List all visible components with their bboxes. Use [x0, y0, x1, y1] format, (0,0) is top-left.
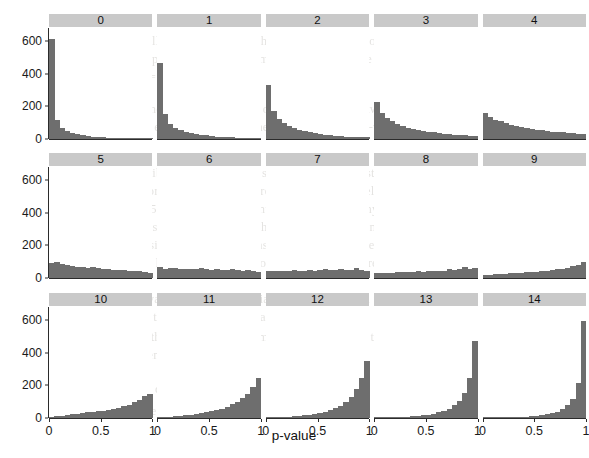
histogram-bar: [256, 138, 262, 139]
facet-strip-label: 2: [266, 14, 369, 27]
y-tick-label: 600: [8, 34, 42, 48]
facet-strip-label: 3: [374, 14, 477, 27]
y-tick-label: 400: [8, 206, 42, 220]
histogram-bar: [581, 262, 587, 278]
x-tick-mark: [586, 419, 587, 422]
histogram-bar: [364, 137, 370, 139]
y-tick-label: 200: [8, 238, 42, 252]
histogram-bars: [157, 167, 260, 278]
facet-panel: [374, 167, 477, 278]
histogram-bar: [472, 341, 478, 418]
facet-strip-label: 4: [483, 14, 586, 27]
x-tick-mark: [369, 419, 370, 422]
x-tick-mark: [318, 419, 319, 422]
histogram-bars: [49, 28, 152, 139]
facet-strip-label: 13: [374, 293, 477, 306]
facet-strip-label: 10: [49, 293, 152, 306]
x-tick-mark: [266, 419, 267, 422]
facet-panel: [266, 28, 369, 139]
x-tick-mark: [261, 419, 262, 422]
histogram-bar: [147, 273, 153, 278]
panel-axis-line-bottom: [374, 278, 477, 279]
histogram-bar: [472, 268, 478, 278]
x-tick-mark: [152, 419, 153, 422]
y-tick-label: 400: [8, 346, 42, 360]
panel-axis-line-bottom: [374, 139, 477, 140]
histogram-bar: [581, 134, 587, 139]
facet-panel: [49, 307, 152, 418]
panel-axis-line-bottom: [483, 139, 586, 140]
y-tick-label: 400: [8, 67, 42, 81]
histogram-bar: [147, 394, 153, 418]
histogram-bars: [157, 28, 260, 139]
y-tick-label: 200: [8, 378, 42, 392]
histogram-bar: [256, 378, 262, 418]
histogram-bars: [374, 307, 477, 418]
x-tick-mark: [483, 419, 484, 422]
histogram-bars: [483, 167, 586, 278]
facet-panel: [483, 167, 586, 278]
facet-panel: [266, 307, 369, 418]
panel-axis-line-bottom: [483, 278, 586, 279]
histogram-bar: [364, 271, 370, 279]
panel-axis-line-bottom: [49, 139, 152, 140]
panel-axis-line-bottom: [157, 139, 260, 140]
facet-strip-label: 5: [49, 153, 152, 166]
facet-strip-label: 12: [266, 293, 369, 306]
x-tick-mark: [534, 419, 535, 422]
histogram-bars: [374, 28, 477, 139]
y-tick-label: 600: [8, 313, 42, 327]
y-tick-label: 600: [8, 173, 42, 187]
y-tick-label: 0: [8, 132, 42, 146]
facet-panel: [157, 28, 260, 139]
facet-strip-label: 7: [266, 153, 369, 166]
histogram-bar: [147, 138, 153, 139]
facet-panel: [483, 28, 586, 139]
facet-strip-label: 1: [157, 14, 260, 27]
panel-axis-line-bottom: [266, 418, 369, 419]
x-tick-mark: [49, 419, 50, 422]
facet-strip-label: 6: [157, 153, 260, 166]
panel-axis-line-bottom: [374, 418, 477, 419]
histogram-bars: [157, 307, 260, 418]
histogram-bars: [266, 28, 369, 139]
facet-panel: [266, 167, 369, 278]
histogram-bars: [374, 167, 477, 278]
panel-axis-line-bottom: [49, 278, 152, 279]
histogram-bar: [581, 321, 587, 418]
y-tick-label: 200: [8, 99, 42, 113]
panel-axis-line-bottom: [157, 278, 260, 279]
histogram-bars: [266, 167, 369, 278]
facet-panel: [49, 28, 152, 139]
histogram-bar: [364, 361, 370, 418]
facet-strip-label: 11: [157, 293, 260, 306]
facet-strip-label: 14: [483, 293, 586, 306]
histogram-bars: [483, 28, 586, 139]
x-tick-mark: [209, 419, 210, 422]
histogram-bars: [483, 307, 586, 418]
panel-axis-line-bottom: [266, 139, 369, 140]
histogram-bars: [49, 307, 152, 418]
panel-axis-line-bottom: [157, 418, 260, 419]
histogram-bar: [256, 272, 262, 278]
x-tick-mark: [426, 419, 427, 422]
x-tick-mark: [374, 419, 375, 422]
panel-axis-line-bottom: [483, 418, 586, 419]
x-tick-mark: [478, 419, 479, 422]
x-tick-mark: [157, 419, 158, 422]
facet-panel: [49, 167, 152, 278]
panel-axis-line-bottom: [266, 278, 369, 279]
histogram-bars: [49, 167, 152, 278]
facet-strip-label: 9: [483, 153, 586, 166]
facet-strip-label: 0: [49, 14, 152, 27]
x-tick-mark: [101, 419, 102, 422]
x-axis-title: p-value: [0, 428, 588, 443]
y-tick-label: 0: [8, 411, 42, 425]
y-tick-label: 0: [8, 271, 42, 285]
histogram-bar: [472, 136, 478, 139]
facet-panel: [374, 28, 477, 139]
facet-panel: [157, 307, 260, 418]
histogram-bars: [266, 307, 369, 418]
facet-panel: [157, 167, 260, 278]
